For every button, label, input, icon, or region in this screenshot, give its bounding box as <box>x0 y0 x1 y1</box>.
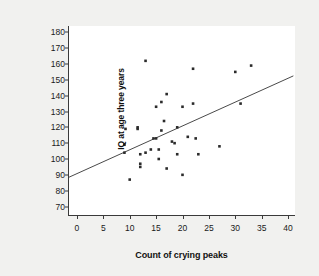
data-point <box>128 178 131 181</box>
data-point <box>139 166 142 169</box>
data-point <box>181 174 184 177</box>
data-point <box>181 105 184 108</box>
data-point <box>160 129 163 132</box>
data-point <box>171 140 174 143</box>
trend-line <box>69 76 293 177</box>
y-tick-label: 80 <box>56 186 65 196</box>
x-tick-mark <box>103 215 104 219</box>
plot-canvas <box>69 26 296 216</box>
data-point <box>157 148 160 151</box>
data-points-group <box>123 60 252 181</box>
y-tick-label: 140 <box>51 91 65 101</box>
x-tick-mark <box>130 215 131 219</box>
x-tick-label: 35 <box>257 223 266 233</box>
y-tick-label: 150 <box>51 75 65 85</box>
data-point <box>234 71 237 74</box>
x-tick-label: 40 <box>283 223 292 233</box>
data-point <box>165 93 168 96</box>
data-point <box>150 148 153 151</box>
data-point <box>192 102 195 105</box>
x-tick-mark <box>262 215 263 219</box>
x-tick-label: 15 <box>151 223 160 233</box>
x-tick-label: 5 <box>101 223 106 233</box>
data-point <box>163 120 166 123</box>
data-point <box>176 126 179 129</box>
data-point <box>176 153 179 156</box>
data-point <box>157 158 160 161</box>
y-tick-mark <box>65 32 69 33</box>
data-point <box>139 153 142 156</box>
scatter-plot-figure: 708090100110120130140150160170180 051015… <box>0 0 319 276</box>
x-tick-mark <box>288 215 289 219</box>
y-tick-label: 170 <box>51 43 65 53</box>
x-tick-label: 25 <box>204 223 213 233</box>
y-tick-mark <box>65 95 69 96</box>
y-tick-mark <box>65 174 69 175</box>
y-tick-mark <box>65 79 69 80</box>
data-point <box>218 145 221 148</box>
y-tick-label: 100 <box>51 154 65 164</box>
y-tick-label: 180 <box>51 27 65 37</box>
y-tick-label: 120 <box>51 122 65 132</box>
y-tick-label: 70 <box>56 202 65 212</box>
data-point <box>155 137 158 140</box>
x-tick-mark <box>235 215 236 219</box>
y-tick-mark <box>65 127 69 128</box>
data-point <box>155 105 158 108</box>
data-point <box>194 137 197 140</box>
x-axis-title: Count of crying peaks <box>68 250 295 260</box>
data-point <box>197 153 200 156</box>
x-tick-mark <box>183 215 184 219</box>
y-tick-mark <box>65 48 69 49</box>
x-tick-label: 30 <box>231 223 240 233</box>
y-tick-mark <box>65 143 69 144</box>
y-tick-mark <box>65 159 69 160</box>
data-point <box>152 137 155 140</box>
y-tick-label: 160 <box>51 59 65 69</box>
data-point <box>144 60 147 63</box>
y-tick-label: 130 <box>51 107 65 117</box>
x-tick-label: 10 <box>125 223 134 233</box>
x-tick-label: 0 <box>75 223 80 233</box>
data-point <box>144 151 147 154</box>
data-point <box>136 126 139 129</box>
x-tick-mark <box>209 215 210 219</box>
y-tick-mark <box>65 206 69 207</box>
data-point <box>165 167 168 170</box>
y-tick-mark <box>65 64 69 65</box>
x-tick-mark <box>77 215 78 219</box>
data-point <box>186 136 189 139</box>
y-axis-title: IQ at age three years <box>116 29 126 189</box>
y-tick-label: 110 <box>51 138 65 148</box>
plot-area: 708090100110120130140150160170180 051015… <box>68 26 295 216</box>
y-tick-mark <box>65 190 69 191</box>
data-point <box>173 142 176 145</box>
x-tick-label: 20 <box>178 223 187 233</box>
data-point <box>192 67 195 70</box>
y-tick-label: 90 <box>56 170 65 180</box>
y-tick-mark <box>65 111 69 112</box>
data-point <box>250 64 253 67</box>
data-point <box>139 162 142 165</box>
x-tick-mark <box>156 215 157 219</box>
data-point <box>160 101 163 104</box>
data-point <box>239 102 242 105</box>
